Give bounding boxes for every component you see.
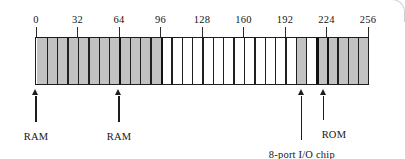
callout-arrow-stem (301, 96, 302, 140)
segment-divider (348, 38, 349, 84)
axis-tick (36, 27, 37, 37)
callout-label: ROM (322, 129, 347, 141)
segment-divider (67, 38, 68, 84)
segment-divider (254, 38, 255, 84)
axis-tick-label: 256 (360, 14, 376, 26)
segment-divider (265, 38, 266, 84)
callout-arrow-stem (323, 96, 324, 120)
callout-label: RAM (24, 131, 49, 143)
segment-divider (223, 38, 224, 84)
segment-divider (285, 38, 286, 84)
segment-divider (327, 38, 329, 84)
address-space-bar (35, 37, 370, 85)
segment-divider (109, 38, 110, 84)
segment-divider (202, 38, 203, 84)
axis-tick-label: 224 (318, 14, 334, 26)
axis-tick-label: 160 (235, 14, 251, 26)
callout-arrow-head-icon (32, 89, 38, 95)
callout-arrow-stem (118, 96, 119, 122)
segment-divider (88, 38, 89, 84)
segment-divider (150, 38, 151, 84)
axis-tick-label: 192 (277, 14, 293, 26)
axis-tick (160, 27, 161, 37)
axis-tick (285, 27, 286, 37)
segment-divider (213, 38, 214, 84)
callout-arrow-stem (35, 96, 36, 122)
memory-segment (359, 38, 369, 84)
axis-tick (243, 27, 244, 37)
segment-divider (306, 38, 307, 84)
callout-arrow-head-icon (115, 89, 121, 95)
segment-divider (244, 38, 245, 84)
axis-tick-label: 128 (194, 14, 210, 26)
callout-label: RAM (107, 131, 132, 143)
segment-divider (119, 38, 121, 84)
segment-divider (47, 38, 48, 84)
segment-divider (140, 38, 141, 84)
axis-tick-label: 64 (114, 14, 125, 26)
segment-divider (161, 38, 163, 84)
segment-divider (130, 38, 131, 84)
axis-tick-label: 32 (72, 14, 83, 26)
axis-tick (326, 27, 327, 37)
segment-divider (337, 38, 338, 84)
axis-tick (368, 27, 369, 37)
segment-divider (358, 38, 359, 84)
axis-tick (119, 27, 120, 37)
callout-arrow-head-icon (298, 89, 304, 95)
segment-divider (57, 38, 58, 84)
memory-map-figure: 0326496128160192224256RAMRAM8-port I/O c… (0, 0, 405, 159)
axis-tick (202, 27, 203, 37)
axis-tick-label: 0 (33, 14, 38, 26)
segment-divider (192, 38, 193, 84)
axis-tick-label: 96 (155, 14, 166, 26)
page-corner-curve (390, 0, 405, 22)
segment-divider (316, 38, 318, 84)
callout-label: 8-port I/O chip (269, 149, 335, 159)
segment-divider (233, 38, 234, 84)
segment-divider (182, 38, 183, 84)
segment-divider (296, 38, 297, 84)
segment-divider (171, 38, 172, 84)
segment-divider (78, 38, 79, 84)
segment-divider (99, 38, 100, 84)
callout-arrow-head-icon (320, 89, 326, 95)
segment-divider (275, 38, 276, 84)
axis-tick (77, 27, 78, 37)
